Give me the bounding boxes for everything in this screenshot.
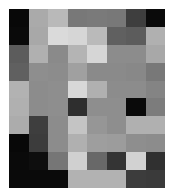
mosaic-cell xyxy=(126,134,146,152)
mosaic-cell xyxy=(87,63,107,81)
mosaic-cell xyxy=(87,152,107,170)
mosaic-cell xyxy=(87,98,107,116)
mosaic-cell xyxy=(68,134,88,152)
mosaic-cell xyxy=(29,27,49,45)
mosaic-cell xyxy=(9,116,29,134)
mosaic-cell xyxy=(68,170,88,188)
mosaic-cell xyxy=(68,116,88,134)
mosaic-cell xyxy=(29,81,49,99)
mosaic-cell xyxy=(87,27,107,45)
mosaic-cell xyxy=(48,81,68,99)
mosaic-cell xyxy=(9,63,29,81)
mosaic-cell xyxy=(29,45,49,63)
mosaic-cell xyxy=(68,152,88,170)
mosaic-cell xyxy=(126,98,146,116)
mosaic-cell xyxy=(29,98,49,116)
mosaic-cell xyxy=(146,134,166,152)
mosaic-cell xyxy=(9,81,29,99)
mosaic-cell xyxy=(48,152,68,170)
mosaic-cell xyxy=(48,98,68,116)
mosaic-cell xyxy=(126,9,146,27)
mosaic-cell xyxy=(126,27,146,45)
mosaic-cell xyxy=(87,116,107,134)
mosaic-cell xyxy=(126,170,146,188)
mosaic-cell xyxy=(126,116,146,134)
mosaic-cell xyxy=(107,170,127,188)
mosaic-cell xyxy=(146,170,166,188)
mosaic-cell xyxy=(68,98,88,116)
mosaic-cell xyxy=(9,45,29,63)
mosaic-cell xyxy=(107,45,127,63)
mosaic-cell xyxy=(107,134,127,152)
mosaic-cell xyxy=(126,63,146,81)
mosaic-cell xyxy=(107,116,127,134)
mosaic-cell xyxy=(68,9,88,27)
mosaic-cell xyxy=(29,170,49,188)
mosaic-cell xyxy=(29,134,49,152)
screenshot-canvas xyxy=(0,0,172,196)
mosaic-cell xyxy=(48,134,68,152)
mosaic-cell xyxy=(146,152,166,170)
mosaic-cell xyxy=(29,9,49,27)
mosaic-cell xyxy=(107,152,127,170)
mosaic-cell xyxy=(107,9,127,27)
mosaic-cell xyxy=(68,63,88,81)
mosaic-cell xyxy=(68,81,88,99)
mosaic-cell xyxy=(107,98,127,116)
mosaic-cell xyxy=(48,9,68,27)
mosaic-cell xyxy=(29,116,49,134)
mosaic-cell xyxy=(48,27,68,45)
mosaic-cell xyxy=(146,63,166,81)
mosaic-cell xyxy=(87,45,107,63)
pixelated-image-mosaic xyxy=(9,9,165,188)
mosaic-cell xyxy=(48,116,68,134)
mosaic-cell xyxy=(68,45,88,63)
mosaic-cell xyxy=(9,27,29,45)
mosaic-cell xyxy=(87,134,107,152)
mosaic-cell xyxy=(48,170,68,188)
mosaic-cell xyxy=(87,9,107,27)
mosaic-cell xyxy=(146,45,166,63)
mosaic-cell xyxy=(48,45,68,63)
mosaic-cell xyxy=(146,98,166,116)
mosaic-cell xyxy=(29,152,49,170)
mosaic-cell xyxy=(146,116,166,134)
mosaic-cell xyxy=(107,27,127,45)
mosaic-cell xyxy=(107,81,127,99)
mosaic-cell xyxy=(48,63,68,81)
mosaic-cell xyxy=(29,63,49,81)
mosaic-cell xyxy=(146,81,166,99)
mosaic-cell xyxy=(9,170,29,188)
mosaic-cell xyxy=(68,27,88,45)
mosaic-cell xyxy=(9,98,29,116)
mosaic-cell xyxy=(87,81,107,99)
mosaic-cell xyxy=(9,9,29,27)
mosaic-cell xyxy=(87,170,107,188)
mosaic-cell xyxy=(9,134,29,152)
mosaic-cell xyxy=(9,152,29,170)
mosaic-cell xyxy=(126,81,146,99)
mosaic-cell xyxy=(126,152,146,170)
mosaic-cell xyxy=(146,9,166,27)
mosaic-cell xyxy=(146,27,166,45)
mosaic-cell xyxy=(107,63,127,81)
mosaic-cell xyxy=(126,45,146,63)
